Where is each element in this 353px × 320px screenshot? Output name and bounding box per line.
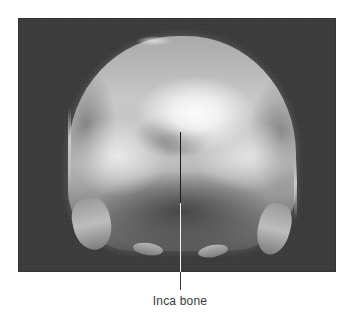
annotation-label: Inca bone [130,294,230,308]
skull-left-edge-highlight [68,108,71,188]
skull-photograph [18,18,336,272]
skull-top-ridge [136,36,172,46]
leader-line [180,203,181,272]
skull-right-edge-highlight [294,158,297,220]
figure: Inca bone [0,0,353,320]
leader-line [180,272,181,290]
leader-line [180,132,181,203]
